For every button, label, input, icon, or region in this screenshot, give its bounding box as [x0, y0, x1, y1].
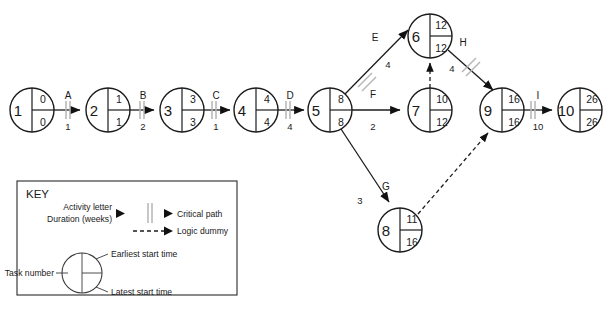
key-activity-letter-label: Activity letter — [63, 202, 112, 212]
network-node-5[interactable]: 5 8 8 — [308, 88, 352, 132]
network-node-6[interactable]: 6 12 12 — [408, 14, 452, 58]
node-earliest-start: 4 — [264, 93, 270, 105]
node-task-number: 2 — [90, 102, 98, 119]
activity-duration-F: 2 — [370, 121, 375, 132]
activity-edge-E: E 4 — [345, 30, 408, 94]
node-earliest-start: 26 — [586, 93, 598, 105]
activity-label-B: B — [140, 90, 147, 101]
key-critical-path-label: Critical path — [177, 209, 223, 219]
key-duration-label: Duration (weeks) — [47, 214, 112, 224]
network-node-4[interactable]: 4 4 4 — [234, 88, 278, 132]
key-logic-dummy-label: Logic dummy — [177, 226, 229, 236]
node-task-number: 7 — [412, 102, 420, 119]
activity-edge-I: I 10 — [524, 90, 552, 132]
node-task-number: 6 — [412, 28, 420, 45]
key-legend: KEY Activity letter Duration (weeks) Cri… — [5, 181, 237, 297]
network-node-2[interactable]: 2 1 1 — [86, 88, 130, 132]
activity-label-E: E — [372, 32, 379, 43]
network-node-3[interactable]: 3 3 3 — [160, 88, 204, 132]
node-task-number: 1 — [14, 102, 22, 119]
node-earliest-start: 11 — [407, 213, 418, 225]
node-latest-start: 16 — [406, 236, 418, 248]
node-earliest-start: 10 — [436, 93, 448, 105]
logic-dummy-edge-8-9 — [418, 133, 488, 214]
activity-edge-B: B 2 — [130, 90, 154, 132]
node-task-number: 3 — [164, 102, 172, 119]
activity-duration-H: 4 — [449, 63, 454, 74]
node-earliest-start: 8 — [338, 93, 344, 105]
key-latest-start-label: Latest start time — [111, 287, 172, 297]
activity-edge-G: G 3 — [341, 129, 390, 206]
node-latest-start: 8 — [338, 116, 344, 128]
node-latest-start: 1 — [116, 116, 122, 128]
node-earliest-start: 0 — [40, 93, 46, 105]
node-task-number: 9 — [484, 102, 492, 119]
activity-duration-C: 1 — [213, 121, 218, 132]
node-latest-start: 4 — [264, 116, 270, 128]
network-node-8[interactable]: 8 11 16 — [378, 208, 422, 252]
node-latest-start: 3 — [190, 116, 196, 128]
node-earliest-start: 1 — [116, 93, 122, 105]
network-diagram-canvas: A 1 B 2 C 1 D 4 — [0, 0, 611, 310]
node-latest-start: 26 — [586, 116, 598, 128]
activity-label-C: C — [212, 90, 219, 101]
node-latest-start: 12 — [435, 42, 447, 54]
node-task-number: 8 — [382, 222, 390, 239]
activity-label-A: A — [65, 90, 72, 101]
activity-duration-A: 1 — [65, 121, 70, 132]
network-node-10[interactable]: 10 26 26 — [558, 88, 602, 132]
node-latest-start: 0 — [40, 116, 46, 128]
activity-duration-D: 4 — [287, 121, 292, 132]
activity-label-D: D — [286, 90, 293, 101]
activity-label-G: G — [382, 181, 390, 192]
activity-duration-E: 4 — [385, 59, 390, 70]
activity-duration-B: 2 — [140, 121, 145, 132]
key-earliest-start-label: Earliest start time — [111, 249, 178, 259]
activity-edge-A: A 1 — [54, 90, 80, 132]
activity-label-I: I — [537, 90, 540, 101]
network-node-7[interactable]: 7 10 12 — [408, 88, 452, 132]
activity-edge-H: H 4 — [448, 37, 493, 91]
node-earliest-start: 3 — [190, 93, 196, 105]
activity-duration-G: 3 — [357, 195, 362, 206]
node-task-number: 5 — [312, 102, 320, 119]
node-task-number: 4 — [238, 102, 246, 119]
activity-label-H: H — [459, 37, 466, 48]
node-earliest-start: 12 — [435, 19, 447, 31]
node-latest-start: 12 — [436, 116, 448, 128]
activity-duration-I: 10 — [533, 121, 544, 132]
node-task-number: 10 — [558, 102, 575, 119]
activity-edge-D: D 4 — [278, 90, 304, 132]
node-latest-start: 16 — [508, 116, 520, 128]
activity-edge-F: F 2 — [352, 89, 400, 132]
node-earliest-start: 16 — [508, 93, 520, 105]
network-node-9[interactable]: 9 16 16 — [480, 88, 524, 132]
network-diagram-svg: A 1 B 2 C 1 D 4 — [0, 0, 611, 310]
key-task-number-label: Task number — [5, 268, 54, 278]
activity-label-F: F — [370, 89, 376, 100]
network-node-1[interactable]: 1 0 0 — [10, 88, 54, 132]
key-heading: KEY — [26, 188, 49, 200]
activity-edge-C: C 1 — [204, 90, 230, 132]
